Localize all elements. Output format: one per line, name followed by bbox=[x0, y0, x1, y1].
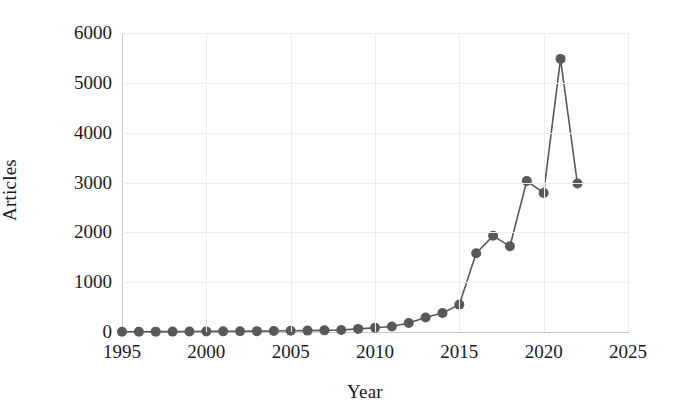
data-point bbox=[235, 326, 245, 336]
line-chart: Articles Year 0100020003000400050006000 … bbox=[0, 0, 688, 418]
x-tick-label: 2005 bbox=[272, 341, 310, 363]
data-point bbox=[505, 241, 515, 251]
gridline-vertical bbox=[291, 33, 292, 332]
x-tick-label: 2000 bbox=[187, 341, 225, 363]
data-point bbox=[269, 326, 279, 336]
data-point bbox=[319, 325, 329, 335]
data-point bbox=[522, 176, 532, 186]
y-tick-label: 2000 bbox=[74, 221, 112, 243]
y-tick-label: 4000 bbox=[74, 122, 112, 144]
y-tick-label: 6000 bbox=[74, 22, 112, 44]
data-point bbox=[353, 324, 363, 334]
data-point bbox=[117, 327, 127, 337]
x-tick-label: 2025 bbox=[609, 341, 647, 363]
data-point bbox=[387, 322, 397, 332]
y-tick-label: 0 bbox=[103, 321, 113, 343]
y-tick-label: 3000 bbox=[74, 172, 112, 194]
x-tick-label: 1995 bbox=[103, 341, 141, 363]
plot-area bbox=[122, 33, 628, 332]
data-point bbox=[151, 327, 161, 337]
x-tick-label: 2010 bbox=[356, 341, 394, 363]
x-tick-label: 2015 bbox=[440, 341, 478, 363]
series-markers bbox=[117, 54, 582, 337]
data-point bbox=[336, 325, 346, 335]
gridline-vertical bbox=[206, 33, 207, 332]
data-point bbox=[168, 327, 178, 337]
data-point bbox=[421, 313, 431, 323]
y-axis-tick-labels: 0100020003000400050006000 bbox=[0, 0, 112, 418]
gridline-vertical bbox=[544, 33, 545, 332]
data-point bbox=[252, 326, 262, 336]
data-point bbox=[134, 327, 144, 337]
data-point bbox=[471, 248, 481, 258]
data-point bbox=[184, 327, 194, 337]
x-tick-label: 2020 bbox=[525, 341, 563, 363]
y-tick-label: 1000 bbox=[74, 271, 112, 293]
data-point bbox=[404, 318, 414, 328]
x-axis-title: Year bbox=[347, 381, 383, 403]
data-point bbox=[303, 326, 313, 336]
gridline-vertical bbox=[459, 33, 460, 332]
data-point bbox=[218, 326, 228, 336]
series-line bbox=[122, 59, 577, 332]
data-point bbox=[556, 54, 566, 64]
data-point bbox=[437, 308, 447, 318]
y-tick-label: 5000 bbox=[74, 72, 112, 94]
gridline-vertical bbox=[375, 33, 376, 332]
gridline-vertical bbox=[628, 33, 629, 332]
